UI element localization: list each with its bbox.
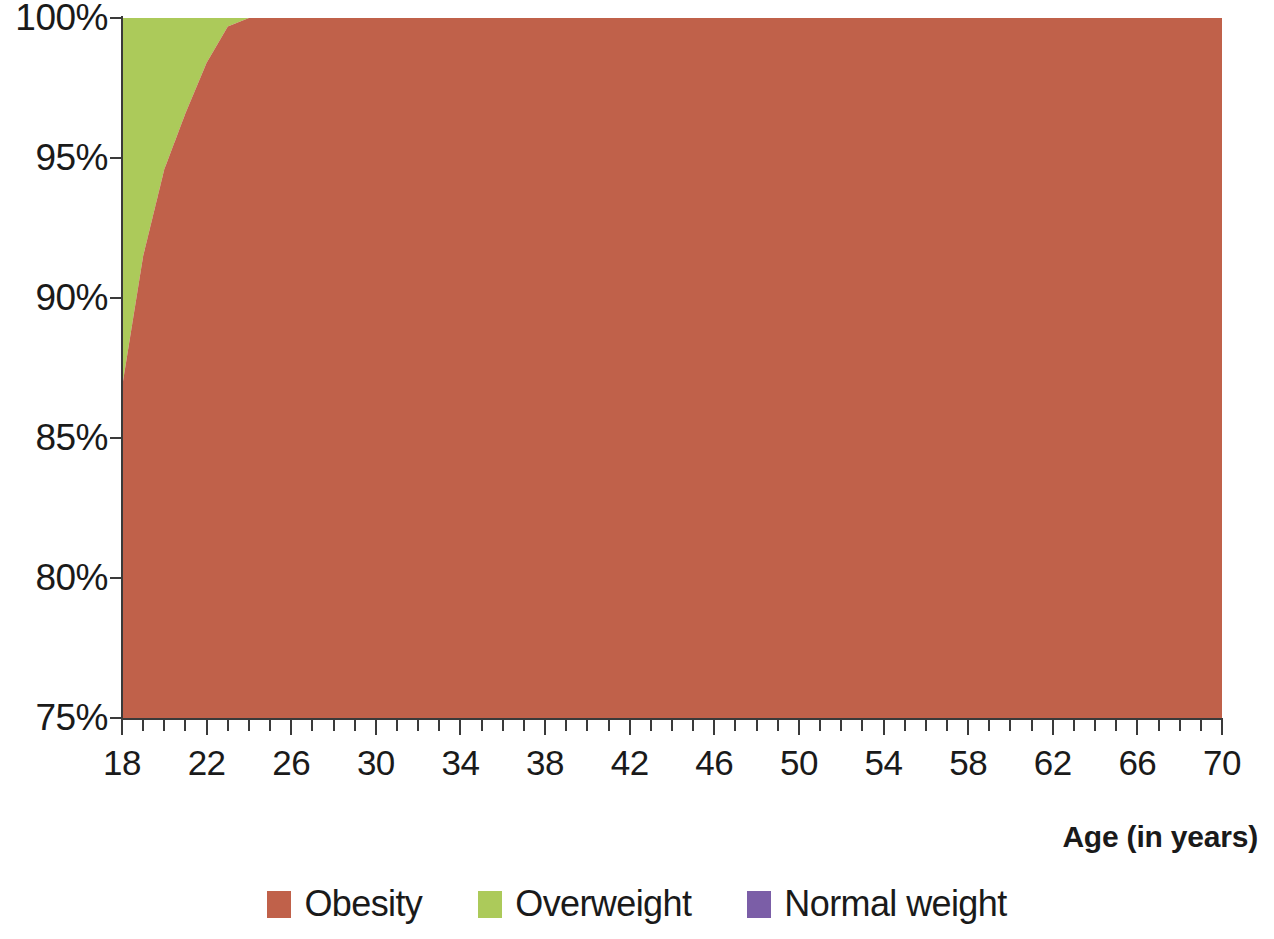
- y-axis-tick-label: 90%: [4, 279, 108, 316]
- y-axis-tick: [110, 157, 121, 159]
- x-axis-tick-minor: [586, 720, 588, 731]
- x-axis-tick-major: [629, 720, 631, 735]
- legend-swatch-icon: [267, 891, 291, 918]
- x-axis-title: Age (in years): [1062, 820, 1258, 854]
- x-axis-tick-minor: [692, 720, 694, 731]
- y-axis-tick: [110, 437, 121, 439]
- x-axis-tick-label: 54: [865, 745, 903, 780]
- x-axis-tick-major: [375, 720, 377, 735]
- x-axis-tick-minor: [248, 720, 250, 731]
- x-axis-tick-major: [798, 720, 800, 735]
- x-axis-tick-minor: [1009, 720, 1011, 731]
- y-axis-tick-label: 80%: [4, 559, 108, 596]
- x-axis-tick-major: [713, 720, 715, 735]
- chart-legend: ObesityOverweightNormal weight: [0, 886, 1274, 922]
- x-axis-tick-minor: [1158, 720, 1160, 731]
- x-axis-tick-minor: [946, 720, 948, 731]
- y-axis-tick: [110, 717, 121, 719]
- x-axis-tick-minor: [671, 720, 673, 731]
- x-axis-tick-minor: [756, 720, 758, 731]
- legend-item[interactable]: Overweight: [478, 886, 691, 922]
- x-axis-tick-label: 22: [188, 745, 226, 780]
- y-axis-tick-label: 85%: [4, 419, 108, 456]
- y-axis-labels: 75%80%85%90%95%100%: [0, 0, 108, 740]
- plot-svg: [122, 18, 1222, 718]
- x-axis-tick-label: 62: [1034, 745, 1072, 780]
- x-axis-tick-label: 42: [611, 745, 649, 780]
- x-axis-tick-minor: [227, 720, 229, 731]
- x-axis-tick-label: 38: [526, 745, 564, 780]
- legend-label: Normal weight: [784, 886, 1006, 922]
- x-axis-tick-minor: [142, 720, 144, 731]
- y-axis-tick: [110, 297, 121, 299]
- x-axis-tick-major: [121, 720, 123, 735]
- x-axis-tick-major: [1136, 720, 1138, 735]
- y-axis-tick: [110, 17, 121, 19]
- x-axis-tick-label: 30: [357, 745, 395, 780]
- series-layer: [122, 18, 1222, 718]
- x-axis-tick-minor: [311, 720, 313, 731]
- y-axis-tick-label: 100%: [4, 0, 108, 36]
- x-axis-tick-minor: [1094, 720, 1096, 731]
- x-axis-tick-major: [1052, 720, 1054, 735]
- x-axis-tick-minor: [904, 720, 906, 731]
- x-axis-tick-minor: [523, 720, 525, 731]
- x-axis-tick-minor: [1115, 720, 1117, 731]
- x-axis-tick-minor: [1031, 720, 1033, 731]
- x-axis-tick-major: [290, 720, 292, 735]
- legend-swatch-icon: [747, 891, 771, 918]
- x-axis-tick-label: 26: [272, 745, 310, 780]
- x-axis-tick-minor: [502, 720, 504, 731]
- x-axis-tick-label: 66: [1118, 745, 1156, 780]
- x-axis-tick-major: [544, 720, 546, 735]
- x-axis-tick-minor: [438, 720, 440, 731]
- x-axis-tick-major: [1221, 720, 1223, 735]
- legend-item[interactable]: Obesity: [267, 886, 422, 922]
- x-axis-tick-minor: [777, 720, 779, 731]
- x-axis-tick-minor: [333, 720, 335, 731]
- x-axis-tick-minor: [1200, 720, 1202, 731]
- y-axis-tick-label: 95%: [4, 139, 108, 176]
- legend-item[interactable]: Normal weight: [747, 886, 1006, 922]
- stacked-area-chart: 75%80%85%90%95%100% 18222630343842465054…: [0, 0, 1274, 939]
- x-axis-tick-label: 58: [949, 745, 987, 780]
- x-axis-tick-minor: [163, 720, 165, 731]
- x-axis-tick-label: 70: [1203, 745, 1241, 780]
- x-axis-tick-label: 46: [695, 745, 733, 780]
- x-axis-tick-minor: [988, 720, 990, 731]
- x-axis-tick-major: [206, 720, 208, 735]
- plot-area: [122, 18, 1222, 718]
- x-axis-tick-minor: [269, 720, 271, 731]
- x-axis-tick-minor: [184, 720, 186, 731]
- x-axis-tick-minor: [396, 720, 398, 731]
- area-obesity: [122, 18, 1222, 718]
- x-axis-tick-minor: [819, 720, 821, 731]
- x-axis-tick-label: 18: [103, 745, 141, 780]
- x-axis-tick-minor: [1179, 720, 1181, 731]
- x-axis-tick-minor: [481, 720, 483, 731]
- x-axis-tick-major: [883, 720, 885, 735]
- x-axis-tick-minor: [1073, 720, 1075, 731]
- x-axis-tick-minor: [565, 720, 567, 731]
- x-axis-tick-label: 34: [441, 745, 479, 780]
- x-axis-tick-minor: [417, 720, 419, 731]
- legend-label: Overweight: [515, 886, 691, 922]
- x-axis-tick-minor: [925, 720, 927, 731]
- x-axis-tick-major: [459, 720, 461, 735]
- x-axis-tick-minor: [608, 720, 610, 731]
- x-axis-tick-label: 50: [780, 745, 818, 780]
- legend-label: Obesity: [304, 886, 422, 922]
- x-axis-tick-minor: [354, 720, 356, 731]
- y-axis-tick: [110, 577, 121, 579]
- y-axis-line: [121, 16, 123, 720]
- x-axis-tick-minor: [734, 720, 736, 731]
- legend-swatch-icon: [478, 891, 502, 918]
- y-axis-tick-label: 75%: [4, 699, 108, 736]
- x-axis-tick-major: [967, 720, 969, 735]
- x-axis-tick-minor: [650, 720, 652, 731]
- x-axis-tick-minor: [861, 720, 863, 731]
- x-axis-tick-minor: [840, 720, 842, 731]
